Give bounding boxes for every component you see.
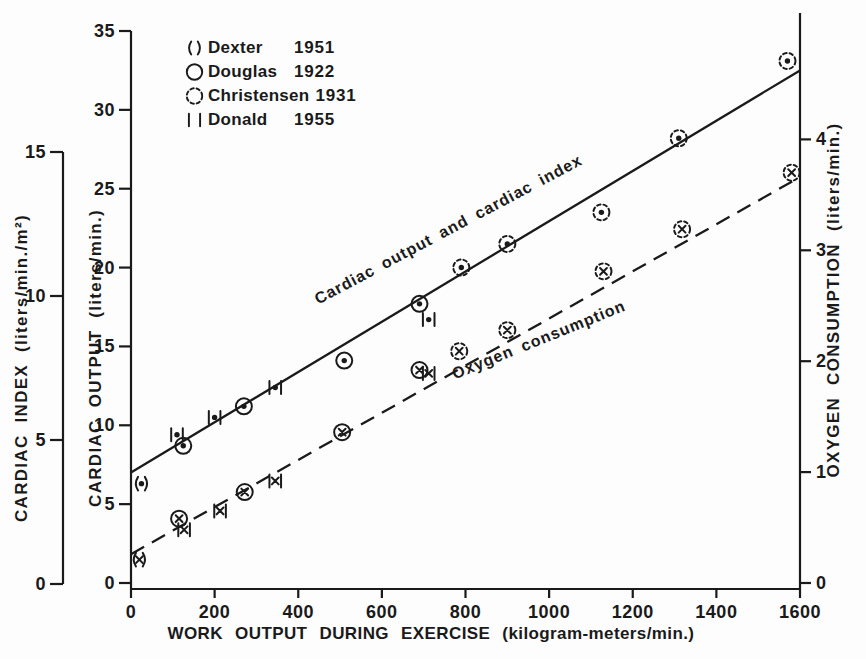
legend-study-year: 1931 xyxy=(316,86,357,106)
oxygen-consumption-axis-title: OXYGEN CONSUMPTION (liters/min.) xyxy=(824,90,844,510)
x-tick-label: 200 xyxy=(199,602,231,622)
figure: 0510150510152025303501234020040060080010… xyxy=(0,0,866,659)
data-point-donald xyxy=(423,313,435,326)
data-point-christensen xyxy=(499,322,515,338)
legend-item-donald: Donald 1955 xyxy=(181,108,357,132)
cardiac-output-tick-label: 30 xyxy=(94,100,115,120)
data-point-donald xyxy=(171,428,183,441)
legend-study-year: 1951 xyxy=(294,38,335,58)
chart-canvas: 0510150510152025303501234020040060080010… xyxy=(0,0,866,659)
data-point-christensen xyxy=(784,165,800,181)
cardiac-output-axis-title: CARDIAC OUTPUT (liters/min.) xyxy=(86,148,106,568)
legend: Dexter 1951 Douglas 1922 Christensen 193… xyxy=(181,36,357,132)
cardiac-output-tick-label: 35 xyxy=(94,21,115,41)
cardiac-index-axis-title: CARDIAC INDEX (liters/min./m²) xyxy=(12,158,32,578)
data-point-christensen xyxy=(779,53,795,69)
legend-study-name: Donald xyxy=(208,110,294,130)
donald-bars-marker-icon xyxy=(181,108,208,132)
legend-study-year: 1922 xyxy=(294,62,335,82)
x-tick-label: 1000 xyxy=(528,602,570,622)
legend-study-year: 1955 xyxy=(294,110,335,130)
data-point-christensen xyxy=(674,221,690,237)
legend-study-name: Douglas xyxy=(208,62,294,82)
data-point-donald xyxy=(423,367,435,380)
dexter-parentheses-marker-icon xyxy=(181,36,208,60)
legend-item-douglas: Douglas 1922 xyxy=(181,60,357,84)
data-point-dexter xyxy=(134,553,145,567)
x-axis-title: WORK OUTPUT DURING EXERCISE (kilogram-me… xyxy=(101,624,761,644)
data-point-donald xyxy=(269,474,281,487)
x-tick-label: 600 xyxy=(366,602,398,622)
data-point-christensen xyxy=(595,263,611,279)
oxygen-tick-label: 0 xyxy=(816,573,827,593)
legend-item-christensen: Christensen 1931 xyxy=(181,84,357,108)
christensen-dashed-circle-marker-icon xyxy=(181,84,208,108)
data-point-christensen xyxy=(593,204,609,220)
data-point-douglas xyxy=(336,353,352,369)
x-tick-label: 1200 xyxy=(612,602,654,622)
legend-item-dexter: Dexter 1951 xyxy=(181,36,357,60)
x-tick-label: 1400 xyxy=(695,602,737,622)
cardiac-index-tick-label: 5 xyxy=(35,430,46,450)
legend-study-name: Dexter xyxy=(208,38,294,58)
x-tick-label: 0 xyxy=(126,602,137,622)
legend-study-name: Christensen xyxy=(208,86,316,106)
x-tick-label: 800 xyxy=(450,602,482,622)
x-tick-label: 1600 xyxy=(779,602,821,622)
cardiac-output-tick-label: 5 xyxy=(104,494,115,514)
x-tick-label: 400 xyxy=(282,602,314,622)
data-point-douglas xyxy=(236,398,252,414)
cardiac-output-tick-label: 0 xyxy=(104,573,115,593)
data-point-dexter xyxy=(136,477,147,491)
douglas-circle-marker-icon xyxy=(181,60,208,84)
cardiac-index-tick-label: 0 xyxy=(35,574,46,594)
